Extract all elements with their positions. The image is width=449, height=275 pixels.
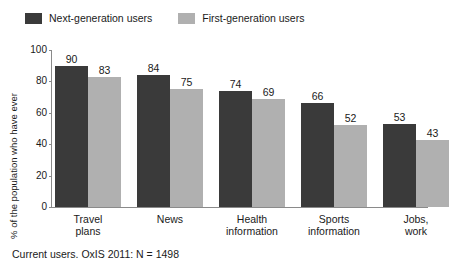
x-axis-label-sports-information: Sports information xyxy=(291,213,377,237)
bar-next-generation-travel-plans[interactable] xyxy=(55,66,88,207)
y-tick-mark-20 xyxy=(49,176,52,177)
x-axis-label-travel-plans-line2: plans xyxy=(45,225,131,237)
x-axis-label-travel-plans-line1: Travel xyxy=(45,213,131,225)
legend-swatch-icon-first-generation xyxy=(178,13,195,24)
y-tick-label-20: 20 xyxy=(36,171,47,181)
x-axis-label-jobs-work-line1: Jobs, xyxy=(373,213,449,225)
bar-next-generation-sports-information[interactable] xyxy=(301,103,334,207)
x-axis-label-jobs-work: Jobs, work xyxy=(373,213,449,237)
y-tick-label-60: 60 xyxy=(36,108,47,118)
x-axis-label-health-information: Health information xyxy=(209,213,295,237)
bar-next-generation-health-information[interactable] xyxy=(219,91,252,207)
bar-value-label-first-jobs-work: 43 xyxy=(416,128,449,139)
y-tick-label-40: 40 xyxy=(36,139,47,149)
chart-legend: Next-generation users First-generation u… xyxy=(25,13,304,24)
bar-value-label-first-sports-information: 52 xyxy=(334,113,367,124)
plot-area: % of the population who have ever 100 80… xyxy=(52,50,427,207)
legend-label-first-generation: First-generation users xyxy=(202,13,304,24)
bar-first-generation-travel-plans[interactable] xyxy=(88,77,121,207)
y-tick-mark-40 xyxy=(49,144,52,145)
x-axis-label-jobs-work-line2: work xyxy=(373,225,449,237)
x-axis-label-news-line1: News xyxy=(127,213,213,225)
bar-value-label-first-health-information: 69 xyxy=(252,87,285,98)
bar-first-generation-jobs-work[interactable] xyxy=(416,140,449,208)
x-axis-label-sports-information-line1: Sports xyxy=(291,213,377,225)
y-tick-label-0: 0 xyxy=(41,202,47,212)
x-axis-label-sports-information-line2: information xyxy=(291,225,377,237)
y-axis-line xyxy=(51,50,52,208)
bar-chart-figure: Next-generation users First-generation u… xyxy=(0,0,449,275)
y-tick-mark-60 xyxy=(49,113,52,114)
bar-value-label-first-news: 75 xyxy=(170,77,203,88)
bar-next-generation-jobs-work[interactable] xyxy=(383,124,416,207)
x-axis-line xyxy=(51,207,428,208)
legend-swatch-icon-next-generation xyxy=(25,13,42,24)
x-axis-label-news: News xyxy=(127,213,213,225)
y-tick-mark-0 xyxy=(49,207,52,208)
y-axis-title: % of the population who have ever xyxy=(8,86,19,246)
y-tick-label-100: 100 xyxy=(30,45,47,55)
x-axis-label-health-information-line1: Health xyxy=(209,213,295,225)
bar-first-generation-health-information[interactable] xyxy=(252,99,285,207)
legend-label-next-generation: Next-generation users xyxy=(49,13,152,24)
bar-value-label-next-jobs-work: 53 xyxy=(383,112,416,123)
y-tick-mark-80 xyxy=(49,81,52,82)
bar-value-label-first-travel-plans: 83 xyxy=(88,65,121,76)
bar-first-generation-news[interactable] xyxy=(170,89,203,207)
x-axis-label-travel-plans: Travel plans xyxy=(45,213,131,237)
chart-footnote: Current users. OxIS 2011: N = 1498 xyxy=(12,248,179,260)
bar-value-label-next-sports-information: 66 xyxy=(301,91,334,102)
y-tick-mark-100 xyxy=(49,50,52,51)
legend-item-next-generation-users: Next-generation users xyxy=(25,13,152,24)
bar-value-label-next-health-information: 74 xyxy=(219,79,252,90)
bar-value-label-next-travel-plans: 90 xyxy=(55,54,88,65)
bar-first-generation-sports-information[interactable] xyxy=(334,125,367,207)
x-axis-label-health-information-line2: information xyxy=(209,225,295,237)
legend-item-first-generation-users: First-generation users xyxy=(178,13,304,24)
bar-value-label-next-news: 84 xyxy=(137,63,170,74)
bar-next-generation-news[interactable] xyxy=(137,75,170,207)
y-tick-label-80: 80 xyxy=(36,76,47,86)
